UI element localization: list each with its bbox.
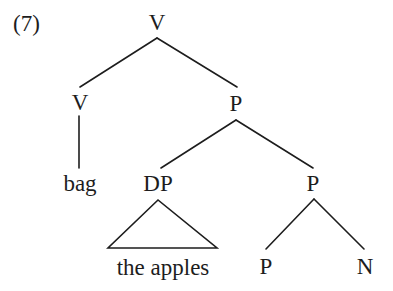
- branch-upper-p-to-dp: [161, 120, 236, 168]
- branch-root-v-to-upper-p: [157, 38, 237, 87]
- terminal-the-apples: the apples: [117, 255, 210, 280]
- terminal-p: P: [260, 254, 273, 279]
- terminal-n: N: [357, 254, 374, 279]
- dp-constituent-triangle: [108, 200, 217, 248]
- node-lower-p: P: [307, 171, 320, 196]
- syntax-tree-figure: (7) V V P DP P bag the apples P N: [0, 0, 393, 291]
- branch-lines-group: [79, 38, 364, 249]
- node-root-v: V: [149, 10, 166, 35]
- branch-root-v-to-left-v: [80, 38, 157, 87]
- node-labels-group: V V P DP P bag the apples P N: [63, 10, 373, 280]
- terminal-bag: bag: [63, 171, 97, 196]
- example-number-label: (7): [13, 11, 40, 36]
- node-upper-p: P: [230, 91, 243, 116]
- branch-upper-p-to-lower-p: [236, 120, 313, 168]
- node-dp: DP: [143, 171, 172, 196]
- branch-lower-p-to-terminal-n: [314, 199, 364, 249]
- branch-lower-p-to-terminal-p: [266, 199, 314, 249]
- node-left-v: V: [72, 90, 89, 115]
